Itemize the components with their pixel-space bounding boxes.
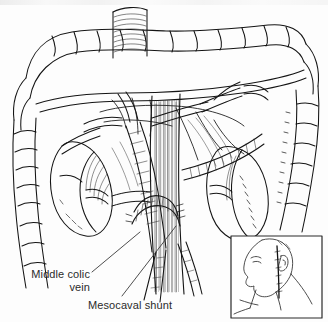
- label-middle-colic-vein-line1: Middle colic: [31, 268, 90, 280]
- inferior-vena-cava: [150, 94, 184, 294]
- label-middle-colic-vein: Middle colic vein: [12, 268, 90, 293]
- label-mesocaval-shunt-line1: Mesocaval shunt: [88, 299, 172, 311]
- left-kidney: [50, 142, 112, 236]
- label-mesocaval-shunt: Mesocaval shunt: [88, 299, 172, 312]
- leader-middle-colic-vein: [92, 232, 140, 272]
- ascending-colon: [277, 86, 319, 232]
- anatomical-figure: Middle colic vein Mesocaval shunt: [0, 0, 328, 322]
- head-neck-inset: [231, 236, 322, 318]
- descending-colon: [13, 118, 48, 288]
- label-middle-colic-vein-line2: vein: [69, 281, 90, 293]
- transverse-colon: [26, 25, 306, 112]
